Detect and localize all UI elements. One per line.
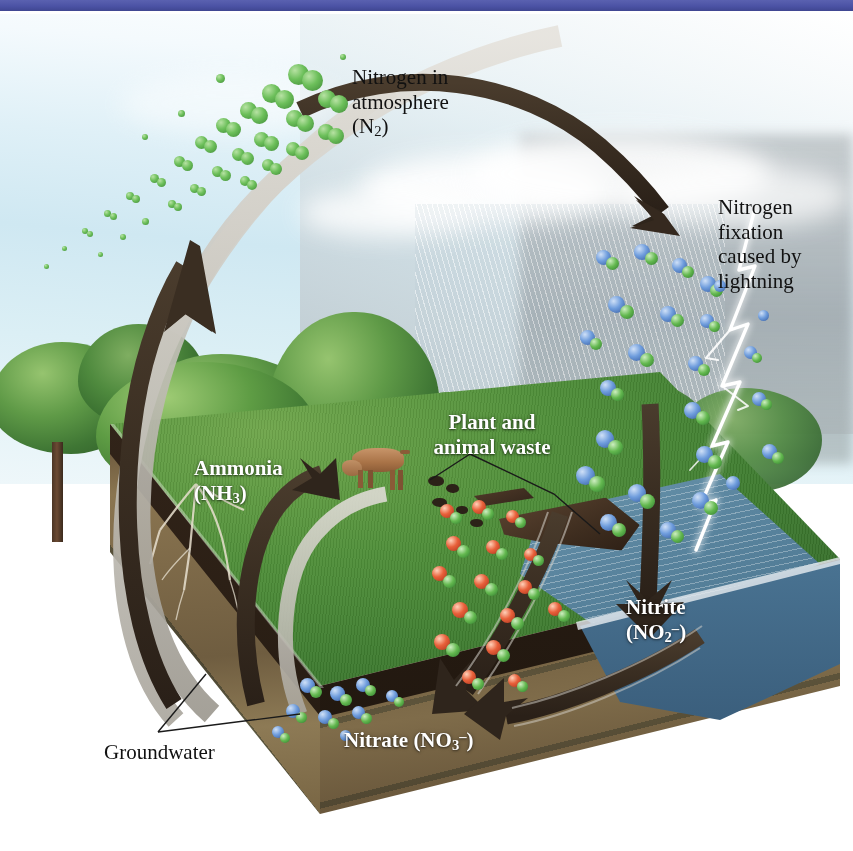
label-line: fixation [718,220,846,245]
label-line: (NH3) [194,481,354,507]
label-plant-and-animal-waste: Plant and animal waste [402,410,582,459]
label-nitrogen-in-atmosphere: Nitrogen in atmosphere (N2) [352,65,542,141]
page-root: Nitrogen in atmosphere (N2) Nitrogen fix… [0,0,853,851]
label-nitrite: Nitrite (NO2–) [626,595,766,646]
label-line: (NO2–) [626,620,766,646]
label-ammonia: Ammonia (NH3) [194,456,354,507]
label-line: Ammonia [194,456,354,481]
label-line: Nitrogen in [352,65,542,90]
label-line: (N2) [352,114,542,140]
label-line: animal waste [402,435,582,460]
label-line: Plant and [402,410,582,435]
label-groundwater: Groundwater [104,740,304,765]
label-nitrate: Nitrate (NO3–) [344,728,574,754]
nitrogen-cycle-illustration: Nitrogen in atmosphere (N2) Nitrogen fix… [0,14,853,851]
label-line: caused by [718,244,846,269]
label-line: Groundwater [104,740,304,765]
label-line: Nitrite [626,595,766,620]
label-line: Nitrogen [718,195,846,220]
accent-bar [0,0,853,11]
label-line: Nitrate (NO3–) [344,728,574,754]
label-nitrogen-fixation-lightning: Nitrogen fixation caused by lightning [718,195,846,293]
label-line: lightning [718,269,846,294]
label-line: atmosphere [352,90,542,115]
